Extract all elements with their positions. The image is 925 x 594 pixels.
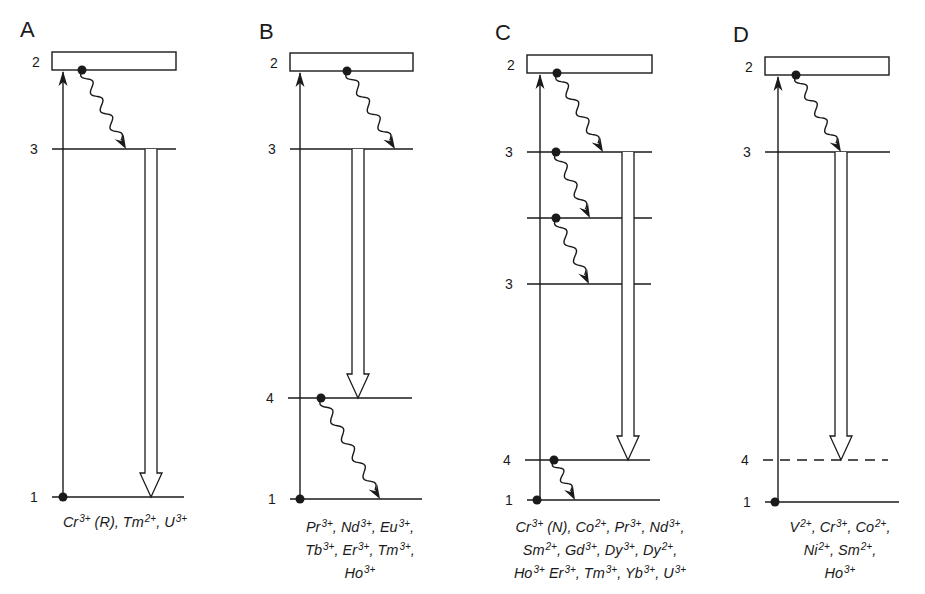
ion-separator: (N), [543,519,575,535]
ion-charge: 2+ [875,518,886,529]
ion-charge: 3+ [176,513,187,524]
wave-arrowhead-icon [369,484,380,499]
ion-symbol: Sm [523,542,545,558]
laser-transition-hollow-arrow [347,149,369,398]
ion-list-c: Cr3+ (N), Co2+, Pr3+, Nd3+,Sm2+, Gd3+, D… [480,514,720,583]
ground-state-dot [59,493,68,502]
ion-symbol: U [663,565,673,581]
ion-separator: , [557,542,565,558]
level-label: 3 [268,141,276,157]
panel-d: D2341 [733,22,899,510]
level-2-band [765,57,889,75]
level-2-band [527,55,652,73]
ion-symbol: Yb [625,565,643,581]
ion-symbol: Dy [643,542,661,558]
level-label: 3 [505,276,513,292]
ground-state-dot [771,498,780,507]
ion-charge: 3+ [644,564,655,575]
ion-symbol: Ho [825,565,844,581]
level-label: 2 [507,57,515,73]
ion-symbol: U [164,514,174,530]
level-label: 3 [505,144,513,160]
wave-arrowhead-icon [383,135,395,150]
panel-letter: B [259,19,274,44]
nonradiative-decay-wave [81,70,123,140]
ion-list-line: Pr3+, Nd3+, Eu3+, [255,514,465,537]
level-label: 1 [505,492,513,508]
ion-separator: , [333,519,341,535]
ion-symbol: Er [343,542,358,558]
ion-list-line: Sm2+, Gd3+, Dy3+, Dy2+, [480,537,720,560]
ion-charge: 3+ [321,518,332,529]
ion-list-line: Ho3+ [255,560,465,583]
ion-charge: 2+ [662,541,673,552]
level-label: 4 [266,390,274,406]
level-2-band [290,53,413,71]
ion-list-line: Cr3+ (N), Co2+, Pr3+, Nd3+, [480,514,720,537]
level-label: 3 [743,144,751,160]
level-label: 1 [268,491,276,507]
ion-separator: , [886,519,890,535]
ion-separator: , [606,519,614,535]
ion-list-b: Pr3+, Nd3+, Eu3+,Tb3+, Er3+, Tm3+,Ho3+ [255,514,465,583]
ion-charge: 3+ [630,518,641,529]
ion-separator: , [411,542,415,558]
ion-symbol: Pr [615,519,630,535]
ion-symbol: Ho [514,565,533,581]
nonradiative-decay-wave [320,398,376,490]
ion-charge: 3+ [532,518,543,529]
ion-symbol: Nd [341,519,360,535]
ion-charge: 2+ [595,518,606,529]
level-label: 4 [503,452,511,468]
energy-level-figure: A231B2341C23341D2341 Cr3+ (R), Tm2+, U3+… [0,0,925,594]
ion-separator: , [635,542,643,558]
ion-symbol: Co [575,519,594,535]
laser-transition-hollow-arrow [617,152,639,460]
laser-transition-hollow-arrow [140,149,162,497]
ion-symbol: Sm [838,542,860,558]
nonradiative-decay-wave [555,218,587,275]
ion-separator: , [410,519,414,535]
wave-arrowhead-icon [579,203,590,218]
ion-symbol: Nd [649,519,668,535]
wave-arrowhead-icon [592,137,603,152]
ion-symbol: Tm [584,565,605,581]
level-label: 2 [270,55,278,71]
ion-symbol: Eu [380,519,398,535]
nonradiative-decay-wave [552,460,572,491]
ion-separator: , [597,542,605,558]
ion-charge: 2+ [819,541,830,552]
ion-charge: 2+ [861,541,872,552]
ion-charge: 3+ [364,564,375,575]
nonradiative-decay-wave [556,73,599,143]
ion-charge: 3+ [358,541,369,552]
ground-state-dot [296,495,305,504]
ion-list-line: Cr3+ (R), Tm2+, U3+ [30,509,220,532]
ion-charge: 3+ [675,564,686,575]
ion-symbol: Cr [820,519,835,535]
ion-separator: (R), [91,514,123,530]
wave-arrowhead-icon [578,269,589,284]
ion-symbol: Gd [565,542,584,558]
level-label: 2 [745,59,753,75]
ion-separator: , [673,542,677,558]
panel-letter: A [20,17,35,42]
ion-charge: 2+ [145,513,156,524]
ion-list-line: V2+, Cr3+, Co2+, [745,514,925,537]
ion-charge: 3+ [79,513,90,524]
ion-symbol: Cr [63,514,78,530]
ion-list-d: V2+, Cr3+, Co2+,Ni2+, Sm2+,Ho3+ [745,514,925,583]
ion-charge: 3+ [533,564,544,575]
ion-charge: 3+ [323,541,334,552]
ion-charge: 3+ [624,541,635,552]
ion-charge: 2+ [546,541,557,552]
ion-list-line: Tb3+, Er3+, Tm3+, [255,537,465,560]
panel-c: C23341 [495,20,660,508]
panel-letter: D [733,22,749,47]
ion-list-line: Ni2+, Sm2+, [745,537,925,560]
ion-separator: , [655,565,663,581]
ion-charge: 3+ [399,541,410,552]
level-label: 3 [30,141,38,157]
laser-transition-hollow-arrow [830,152,852,460]
ion-symbol: V [790,519,800,535]
